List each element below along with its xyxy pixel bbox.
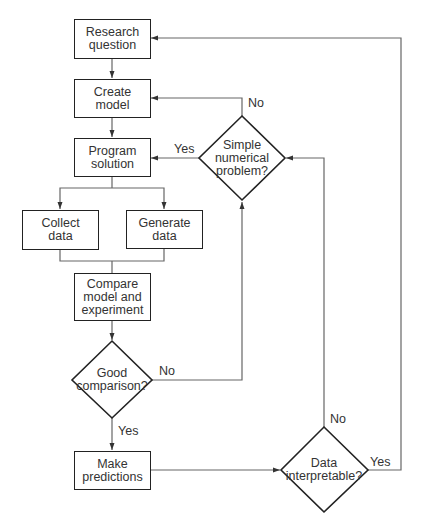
node-collect-data: Collect data xyxy=(22,210,99,250)
edge-label-data-no: No xyxy=(330,412,346,426)
node-compare: Compare model and experiment xyxy=(74,273,151,321)
node-create-model: Create model xyxy=(74,79,151,118)
edge-label-simple-no: No xyxy=(248,96,264,110)
edge-label-simple-yes: Yes xyxy=(174,142,194,156)
label-data-interpretable: Data interpretable? xyxy=(286,457,362,483)
label-good-comparison: Good comparison? xyxy=(76,367,148,393)
node-program-solution: Program solution xyxy=(74,138,151,177)
label-simple-numerical: Simple numerical problem? xyxy=(215,139,269,178)
edge-label-good-no: No xyxy=(159,364,175,378)
edge-label-data-yes: Yes xyxy=(370,455,390,469)
edge-label-good-yes: Yes xyxy=(118,424,138,438)
node-research-question: Research question xyxy=(74,19,151,59)
node-make-predictions: Make predictions xyxy=(74,451,151,490)
flowchart-connectors xyxy=(0,0,423,532)
node-generate-data: Generate data xyxy=(126,210,203,249)
